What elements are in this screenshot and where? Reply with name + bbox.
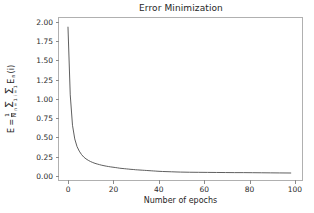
x-tick-label: 40 <box>154 185 164 194</box>
y-tick-label: 1.25 <box>36 75 53 84</box>
y-tick-mark <box>56 60 60 61</box>
y-tick-mark <box>56 22 60 23</box>
ylabel-term-argument: (i) <box>7 65 16 73</box>
x-tick-mark <box>159 180 160 184</box>
y-axis-label: E = 1 N Σ n = 1 Σ i = 1 En(i) <box>5 65 19 133</box>
x-tick-label: 60 <box>199 185 209 194</box>
y-tick-label: 1.50 <box>36 56 53 65</box>
ylabel-term: E <box>7 79 16 84</box>
x-tick-mark <box>68 180 69 184</box>
ylabel-fraction: 1 N <box>6 113 19 117</box>
x-tick-mark <box>204 180 205 184</box>
y-tick-label: 0.25 <box>36 152 53 161</box>
x-tick-label: 80 <box>245 185 255 194</box>
sigma-lower-limit: i = 1 <box>14 85 19 96</box>
y-tick-mark <box>56 176 60 177</box>
ylabel-term-subscript: n <box>10 74 16 77</box>
sigma-lower-limit: n = 1 <box>14 98 19 111</box>
y-tick-label: 0.00 <box>36 171 53 180</box>
x-tick-mark <box>295 180 296 184</box>
y-tick-label: 1.00 <box>36 94 53 103</box>
x-tick-label: 100 <box>288 185 302 194</box>
plot-area: 0.000.250.500.751.001.251.501.752.00 020… <box>58 17 303 181</box>
y-tick-label: 1.75 <box>36 37 53 46</box>
y-tick-mark <box>56 118 60 119</box>
ylabel-lhs: E = <box>7 119 16 133</box>
summation-symbol-outer: Σ n = 1 <box>5 98 19 111</box>
y-tick-mark <box>56 41 60 42</box>
y-tick-mark <box>56 99 60 100</box>
y-tick-mark <box>56 137 60 138</box>
x-tick-label: 20 <box>109 185 119 194</box>
y-tick-mark <box>56 157 60 158</box>
error-curve-line <box>68 27 291 173</box>
x-axis-label: Number of epochs <box>58 196 303 205</box>
y-tick-mark <box>56 80 60 81</box>
y-tick-label: 0.75 <box>36 114 53 123</box>
chart-title: Error Minimization <box>58 3 304 13</box>
x-tick-label: 0 <box>66 185 71 194</box>
x-tick-mark <box>250 180 251 184</box>
summation-symbol-inner: Σ i = 1 <box>5 85 19 96</box>
fraction-denominator: N <box>11 113 18 117</box>
chart-figure: Error Minimization 0.000.250.500.751.001… <box>0 0 314 213</box>
error-curve-svg <box>59 18 302 180</box>
x-tick-mark <box>113 180 114 184</box>
y-tick-label: 0.50 <box>36 133 53 142</box>
y-tick-label: 2.00 <box>36 17 53 26</box>
